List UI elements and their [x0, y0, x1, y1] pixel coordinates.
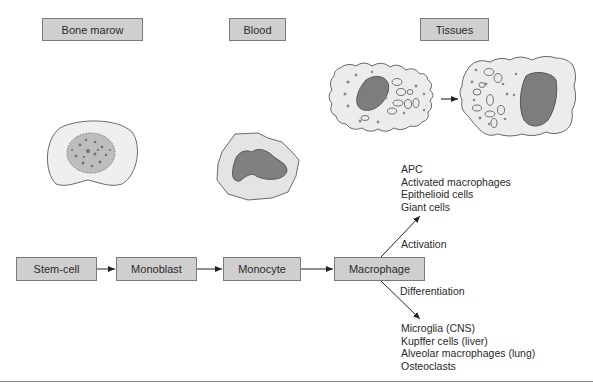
outcome-item: Giant cells [401, 201, 511, 214]
outcome-item: Osteoclasts [401, 360, 535, 373]
differentiation-edge-label: Differentiation [400, 285, 465, 298]
flow-node-label: Macrophage [349, 263, 410, 275]
flow-node-monocyte: Monocyte [223, 257, 301, 281]
flow-node-label: Monoblast [131, 263, 182, 275]
tissue-macrophage-illustration-2 [460, 56, 576, 136]
outcome-item: APC [401, 163, 511, 176]
outcome-item: Epithelioid cells [401, 188, 511, 201]
arrow-activation [381, 216, 420, 257]
outcome-item: Activated macrophages [401, 176, 511, 189]
flow-node-stem-cell: Stem-cell [16, 257, 97, 281]
flow-node-monoblast: Monoblast [116, 257, 197, 281]
outcome-item: Microglia (CNS) [401, 322, 535, 335]
flow-node-label: Monocyte [238, 263, 286, 275]
differentiation-outcomes-list: Microglia (CNS) Kupffer cells (liver) Al… [401, 322, 535, 372]
activation-edge-label: Activation [401, 238, 447, 251]
flow-node-label: Stem-cell [34, 263, 80, 275]
flow-node-macrophage: Macrophage [334, 257, 425, 281]
stem-cell-illustration [47, 121, 137, 185]
activation-outcomes-list: APC Activated macrophages Epithelioid ce… [401, 163, 511, 213]
tissue-macrophage-illustration-1 [329, 63, 433, 131]
bottom-divider [0, 381, 593, 382]
monocyte-illustration [217, 133, 299, 200]
outcome-item: Kupffer cells (liver) [401, 335, 535, 348]
outcome-item: Alveolar macrophages (lung) [401, 347, 535, 360]
